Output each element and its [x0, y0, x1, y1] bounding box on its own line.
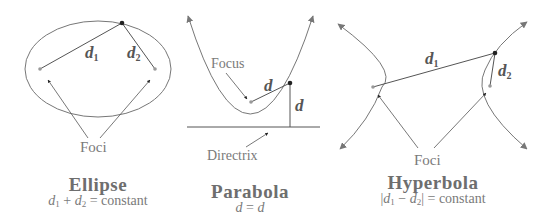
ellipse-focus-left: [38, 67, 42, 71]
focus-label: Focus: [211, 57, 244, 71]
hyperbola-d2-label: d2: [498, 62, 512, 81]
ellipse-formula: d1 + d2 = constant: [38, 194, 158, 209]
ellipse-curve: [25, 21, 171, 117]
hyperbola-figure: [338, 22, 527, 149]
parabola-focus: [249, 100, 253, 104]
ellipse-d1-label: d1: [85, 44, 99, 63]
parabola-title: Parabola: [200, 182, 300, 201]
parabola-formula: d = d: [215, 201, 285, 215]
directrix-leader-arrow: [246, 133, 268, 147]
focus-leader-arrow: [226, 73, 247, 99]
ellipse-figure: [25, 21, 171, 138]
ellipse-foci-arrow-left: [48, 80, 88, 138]
hyperbola-focus-right: [488, 84, 492, 88]
ellipse-d2-label: d2: [127, 44, 141, 63]
hyperbola-foci-label: Foci: [414, 153, 441, 168]
ellipse-foci-arrow-right: [100, 80, 150, 138]
ellipse-title: Ellipse: [48, 175, 148, 194]
hyperbola-foci-arrow-left: [378, 95, 418, 148]
parabola-figure: [187, 16, 320, 147]
parabola-d-label-focus: d: [264, 77, 273, 94]
parabola-point: [288, 81, 293, 86]
directrix-label: Directrix: [207, 149, 258, 163]
ellipse-focus-right: [153, 67, 157, 71]
hyperbola-title: Hyperbola: [383, 173, 483, 192]
hyperbola-left-branch: [338, 24, 386, 149]
ellipse-d1-segment: [40, 23, 122, 69]
ellipse-foci-label: Foci: [80, 140, 107, 155]
hyperbola-foci-arrow-right: [434, 93, 486, 148]
hyperbola-focus-left: [371, 85, 375, 89]
hyperbola-d1-label: d1: [425, 50, 439, 69]
hyperbola-point: [493, 51, 498, 56]
hyperbola-formula: |d1 − d2| = constant: [368, 192, 498, 207]
ellipse-point: [120, 21, 125, 26]
parabola-d-label-directrix: d: [295, 97, 304, 114]
